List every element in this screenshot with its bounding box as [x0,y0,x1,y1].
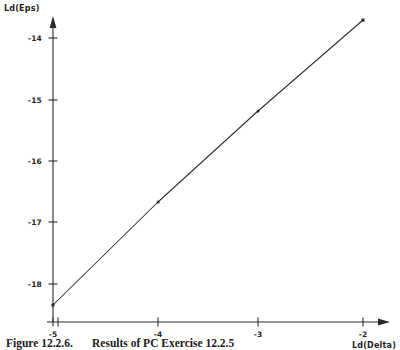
y-axis-title: Ld(Eps) [4,4,40,13]
data-point-1 [157,201,160,204]
figure-caption: Figure 12.2.6. Results of PC Exercise 12… [0,337,400,350]
caption-figure-number: Figure 12.2.6. [6,337,73,350]
y-tick-label--17: -17 [28,218,42,227]
y-axis-arrowhead [50,16,57,28]
data-series-line [53,20,363,305]
data-point-3 [362,19,365,22]
x-axis-arrowhead [378,319,390,326]
figure-container: -14 -15 -16 -17 -18 -5 -4 -3 -2 Ld(Eps) … [0,0,400,350]
data-point-2 [257,110,260,113]
y-tick-label--16: -16 [28,157,42,166]
plot-area: -14 -15 -16 -17 -18 -5 -4 -3 -2 Ld(Eps) … [0,0,400,350]
y-tick-label--15: -15 [28,96,42,105]
y-tick-label--14: -14 [28,34,42,43]
caption-description: Results of PC Exercise 12.2.5 [92,337,234,350]
y-tick-label--18: -18 [28,280,42,289]
data-point-0 [52,304,55,307]
data-points [52,19,365,307]
